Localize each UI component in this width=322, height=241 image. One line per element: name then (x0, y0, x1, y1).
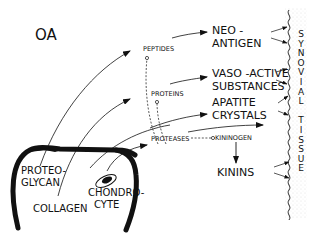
label-chondrocyte-2: CYTE (94, 200, 119, 210)
label-peptides: PEPTIDES (143, 46, 174, 53)
label-neo-antigen-2: ANTIGEN (212, 38, 261, 49)
label-apatite-2: CRYSTALS (212, 110, 267, 121)
label-chondrocyte-1: CHONDRO- (88, 188, 144, 198)
arrow-to-apatite (150, 114, 207, 128)
label-kinins: KININS (217, 167, 254, 178)
label-proteases: PROTEASES (151, 136, 189, 143)
label-proteins: PROTEINS (151, 91, 184, 98)
diagram-title: OA (35, 28, 57, 43)
label-neo-antigen-1: NEO - (212, 25, 243, 36)
label-vaso-active-1: VASO -ACTIVE (212, 68, 289, 79)
label-kininogen: KININOGEN (215, 135, 252, 142)
label-synovial-tissue: S Y N O V I A L T I S S U E (296, 30, 306, 174)
arrow-to-vasoactive (170, 77, 207, 84)
arrow-peptides-to-neoantigen (172, 32, 207, 38)
label-vaso-active-2: SUBSTANCES (212, 81, 285, 92)
dashed-proteases-to-peptides (146, 58, 158, 144)
label-collagen: COLLAGEN (33, 204, 87, 214)
arrow-proteases-to-synovium (188, 125, 263, 132)
label-proteoglycan-2: GLYCAN (21, 178, 60, 188)
label-proteoglycan-1: PROTEO- (21, 166, 66, 176)
label-apatite-1: APATITE (212, 97, 256, 108)
